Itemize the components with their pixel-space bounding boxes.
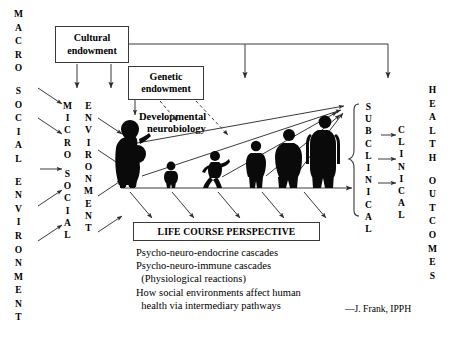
macro-social-environment-letter: E bbox=[15, 284, 21, 298]
box-life-course-perspective[interactable]: LIFE COURSE PERSPECTIVE bbox=[133, 222, 320, 241]
macro-social-environment-letter: I bbox=[17, 126, 21, 140]
macro-social-environment-letter: A bbox=[15, 139, 22, 153]
subclinical-letter: A bbox=[365, 211, 372, 223]
micro-social-letter: O bbox=[64, 149, 71, 161]
axis-subclinical: SUBCLINICAL bbox=[365, 101, 372, 235]
health-outcomes-letter: T bbox=[429, 138, 435, 152]
cascade-line: Psycho-neuro-immune cascades bbox=[136, 259, 366, 272]
macro-social-environment-letter: C bbox=[15, 35, 22, 49]
axis-environment: ENVIRONMENT bbox=[84, 100, 93, 234]
macro-social-environment-letter: N bbox=[15, 257, 22, 271]
environment-letter: E bbox=[85, 100, 91, 112]
arrow-macro-to-micro-2 bbox=[38, 118, 62, 134]
macro-social-environment-letter: L bbox=[15, 153, 21, 167]
cultural-endowment-line1: Cultural bbox=[74, 32, 111, 44]
health-outcomes-letter: O bbox=[429, 175, 436, 189]
arrow-macro-to-micro-5 bbox=[38, 225, 62, 241]
subclinical-letter: I bbox=[367, 162, 371, 174]
macro-social-environment-letter: N bbox=[15, 189, 22, 203]
environment-letter: R bbox=[85, 149, 92, 161]
genetic-endowment-line1: Genetic bbox=[150, 71, 183, 83]
environment-letter: V bbox=[85, 124, 92, 136]
clinical-letter: I bbox=[400, 148, 404, 160]
cascade-line: (Physiological reactions) bbox=[136, 272, 366, 285]
micro-social-letter: C bbox=[64, 124, 71, 136]
adult-silhouette bbox=[275, 129, 302, 188]
health-outcomes-letter: O bbox=[429, 229, 436, 243]
micro-social-letter: A bbox=[64, 217, 71, 229]
clinical-letter: A bbox=[398, 197, 405, 209]
subclinical-letter: L bbox=[365, 150, 371, 162]
environment-letter: M bbox=[84, 185, 93, 197]
clinical-letter: L bbox=[398, 209, 404, 221]
toddler-silhouette bbox=[164, 162, 178, 188]
box-genetic-endowment[interactable]: Genetic endowment bbox=[128, 66, 204, 100]
macro-social-environment-letter: R bbox=[15, 230, 22, 244]
axis-macro-social-environment: MACROSOCIALENVIRONMENT bbox=[14, 8, 23, 325]
health-outcomes-letter: L bbox=[429, 125, 435, 139]
arrow-axis-down-3 bbox=[218, 192, 240, 218]
clinical-letter: C bbox=[398, 124, 405, 136]
environment-letter: E bbox=[85, 198, 91, 210]
macro-social-environment-letter: E bbox=[15, 176, 21, 190]
environment-letter: T bbox=[85, 222, 91, 234]
arrow-fan-4 bbox=[266, 115, 340, 176]
arrow-micro-out-1 bbox=[98, 118, 122, 134]
micro-social-letter: M bbox=[63, 100, 72, 112]
genetic-endowment-line2: endowment bbox=[141, 83, 190, 95]
health-outcomes-letter: A bbox=[429, 111, 436, 125]
arrow-fan-3 bbox=[222, 112, 337, 177]
clinical-letter: L bbox=[398, 136, 404, 148]
running-child-silhouette bbox=[202, 151, 230, 188]
cascade-line: health via intermediary pathways bbox=[136, 299, 366, 312]
macro-social-environment-letter: O bbox=[15, 244, 22, 258]
macro-social-environment-letter: T bbox=[15, 311, 21, 325]
dev-neuro-line1: Developmental bbox=[139, 111, 206, 122]
micro-social-letter: L bbox=[64, 229, 70, 241]
subclinical-letter: N bbox=[365, 174, 372, 186]
micro-social-letter: R bbox=[64, 137, 71, 149]
macro-social-environment-letter: N bbox=[15, 298, 22, 312]
macro-social-environment-letter: A bbox=[15, 22, 22, 36]
arrow-micro-out-4 bbox=[98, 216, 122, 232]
cascade-line: How social environments affect human bbox=[136, 286, 366, 299]
cascade-line: Psycho-neuro-endocrine cascades bbox=[136, 246, 366, 259]
macro-social-environment-letter: C bbox=[15, 112, 22, 126]
health-outcomes-letter: E bbox=[429, 98, 435, 112]
cultural-endowment-line2: endowment bbox=[67, 45, 116, 57]
health-outcomes-letter: H bbox=[429, 84, 436, 98]
macro-social-environment-letter: M bbox=[14, 271, 23, 285]
subclinical-letter: U bbox=[365, 113, 372, 125]
arrow-micro-out-3 bbox=[98, 180, 122, 196]
arrow-axis-down-2 bbox=[172, 192, 194, 218]
arrow-macro-to-micro-1 bbox=[38, 88, 62, 104]
environment-letter: I bbox=[87, 137, 91, 149]
micro-social-letter: I bbox=[66, 205, 70, 217]
axis-micro-social: MICROSOCIAL bbox=[63, 100, 72, 241]
environment-letter: N bbox=[85, 112, 92, 124]
micro-social-letter: C bbox=[64, 192, 71, 204]
diagram-canvas: MACROSOCIALENVIRONMENT MICROSOCIAL ENVIR… bbox=[0, 0, 465, 343]
health-outcomes-letter: C bbox=[429, 215, 436, 229]
macro-social-environment-letter: M bbox=[14, 8, 23, 22]
clinical-letter: C bbox=[398, 185, 405, 197]
axis-health-outcomes: HEALTHOUTCOMES bbox=[428, 84, 437, 283]
axis-clinical: CLINICAL bbox=[398, 124, 405, 222]
subclinical-letter: L bbox=[365, 223, 371, 235]
clinical-letter: N bbox=[398, 161, 405, 173]
environment-letter: N bbox=[85, 173, 92, 185]
macro-social-environment-letter: S bbox=[16, 85, 21, 99]
clinical-letter: I bbox=[400, 173, 404, 185]
cascade-text-block: Psycho-neuro-endocrine cascadesPsycho-ne… bbox=[136, 246, 366, 312]
brace-subclinical-clinical bbox=[349, 104, 359, 216]
arrow-axis-down-4 bbox=[262, 192, 284, 218]
box-cultural-endowment[interactable]: Cultural endowment bbox=[55, 26, 129, 63]
health-outcomes-letter: E bbox=[429, 256, 435, 270]
health-outcomes-letter: M bbox=[428, 243, 437, 257]
subclinical-letter: C bbox=[365, 199, 372, 211]
health-outcomes-letter: U bbox=[429, 188, 436, 202]
environment-letter: O bbox=[85, 161, 92, 173]
macro-social-environment-letter: I bbox=[17, 216, 21, 230]
arrow-macro-to-micro-4 bbox=[38, 190, 62, 206]
life-course-perspective-label: LIFE COURSE PERSPECTIVE bbox=[158, 226, 296, 237]
